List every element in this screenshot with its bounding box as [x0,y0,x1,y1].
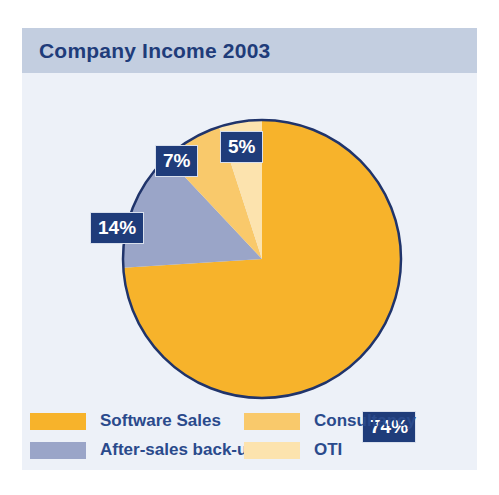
legend-item-software-sales: Software Sales [30,410,221,432]
page-title: Company Income 2003 [39,39,270,63]
chart-title-band: Company Income 2003 [22,28,477,73]
pie-chart-svg [22,73,477,418]
legend-item-consultancy: Consultancy [244,410,416,432]
legend-label-oti: OTI [314,440,342,460]
pie-label-after-sales: 14% [90,212,144,244]
chart-legend: Software Sales After-sales back-up Consu… [22,410,477,470]
legend-label-software-sales: Software Sales [100,411,221,431]
pie-label-oti: 5% [220,131,263,163]
legend-swatch-consultancy [244,413,300,430]
legend-swatch-oti [244,442,300,459]
legend-swatch-software-sales [30,413,86,430]
legend-label-consultancy: Consultancy [314,411,416,431]
legend-label-after-sales-back-up: After-sales back-up [100,440,258,460]
legend-item-oti: OTI [244,439,342,461]
pie-chart-plot-area: 5% 7% 14% 74% [22,73,477,418]
pie-label-consultancy: 7% [155,145,198,177]
legend-item-after-sales-back-up: After-sales back-up [30,439,258,461]
legend-swatch-after-sales-back-up [30,442,86,459]
chart-panel: Company Income 2003 5% 7% 14% 74% Softwa… [22,28,477,470]
